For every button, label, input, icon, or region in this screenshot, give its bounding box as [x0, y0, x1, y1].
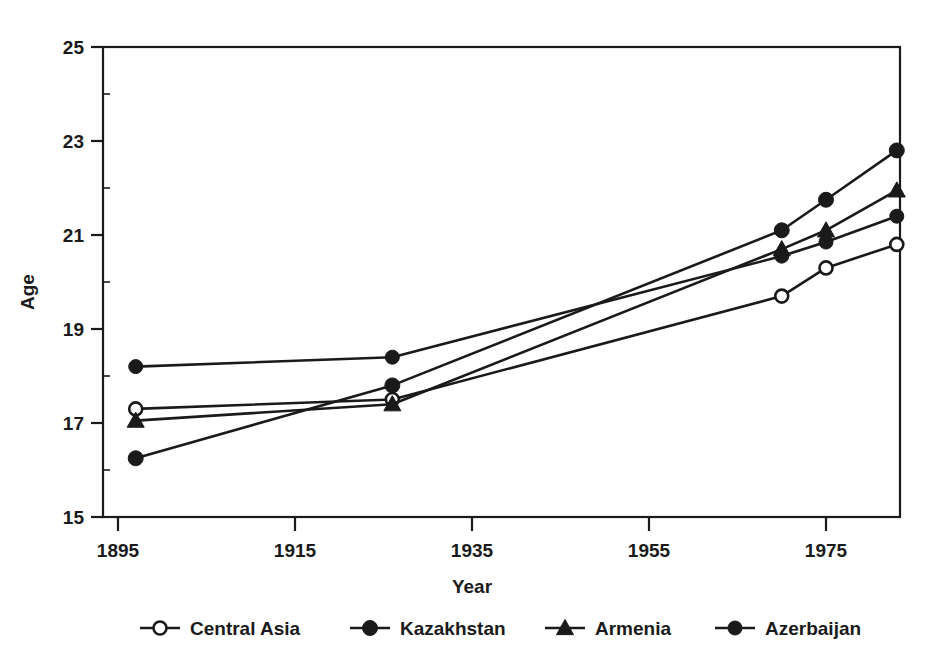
data-point-2 — [775, 290, 788, 303]
y-tick-label-15: 15 — [63, 507, 85, 528]
y-axis-ticks — [91, 47, 103, 517]
legend-label: Kazakhstan — [400, 618, 506, 639]
legend-marker — [363, 621, 378, 636]
series-central-asia — [129, 238, 903, 416]
series-line — [136, 244, 897, 409]
y-tick-label-25: 25 — [63, 37, 85, 58]
data-point-1 — [385, 378, 400, 393]
data-point-0 — [129, 360, 143, 374]
series-armenia — [127, 182, 905, 427]
x-axis-title: Year — [452, 576, 493, 597]
data-point-2 — [775, 249, 789, 263]
y-axis-tick-labels: 25 23 21 19 17 15 — [63, 37, 85, 528]
legend-marker — [728, 621, 742, 635]
x-tick-label-1955: 1955 — [628, 540, 671, 561]
data-point-4 — [890, 238, 903, 251]
data-point-4 — [890, 209, 904, 223]
legend-label: Armenia — [595, 618, 671, 639]
data-point-3 — [820, 261, 833, 274]
legend-item-azerbaijan[interactable]: Azerbaijan — [715, 618, 861, 639]
data-point-4 — [888, 182, 905, 197]
legend-item-central-asia[interactable]: Central Asia — [140, 618, 301, 639]
plot-frame — [103, 47, 900, 517]
y-tick-label-23: 23 — [63, 131, 84, 152]
legend-item-kazakhstan[interactable]: Kazakhstan — [350, 618, 506, 639]
y-tick-label-19: 19 — [63, 319, 84, 340]
x-axis-tick-labels: 1895 1915 1935 1955 1975 — [97, 540, 848, 561]
data-point-2 — [774, 223, 789, 238]
y-tick-label-21: 21 — [63, 225, 85, 246]
y-tick-label-17: 17 — [63, 413, 84, 434]
plot-border — [103, 47, 900, 517]
chart-legend: Central AsiaKazakhstanArmeniaAzerbaijan — [140, 618, 861, 639]
legend-marker — [154, 622, 167, 635]
x-axis-ticks — [118, 517, 826, 531]
data-point-4 — [889, 143, 904, 158]
x-tick-label-1935: 1935 — [451, 540, 494, 561]
line-chart-svg: 25 23 21 19 17 15 Age 1895 1915 1935 195… — [0, 0, 948, 659]
legend-item-armenia[interactable]: Armenia — [545, 618, 671, 639]
data-point-0 — [128, 451, 143, 466]
series-kazakhstan — [128, 143, 904, 466]
data-point-3 — [819, 192, 834, 207]
legend-label: Azerbaijan — [765, 618, 861, 639]
legend-label: Central Asia — [190, 618, 301, 639]
x-tick-label-1915: 1915 — [274, 540, 317, 561]
x-tick-label-1975: 1975 — [805, 540, 848, 561]
x-tick-label-1895: 1895 — [97, 540, 140, 561]
data-point-3 — [819, 235, 833, 249]
chart-figure: 25 23 21 19 17 15 Age 1895 1915 1935 195… — [0, 0, 948, 659]
data-point-1 — [385, 350, 399, 364]
data-series-layer — [127, 143, 905, 466]
y-axis-title: Age — [17, 274, 38, 310]
